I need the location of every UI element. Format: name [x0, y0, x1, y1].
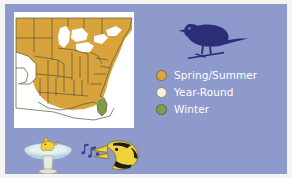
- circle-swatch-icon: [156, 87, 167, 98]
- legend: Spring/Summer Year-Round Winter: [156, 67, 286, 118]
- birdbath-bird-eye: [45, 143, 47, 145]
- legend-item-winter[interactable]: Winter: [156, 101, 286, 118]
- singing-bird-head: [93, 141, 138, 170]
- bird-eye: [188, 27, 190, 29]
- singing-bird-eye: [115, 148, 118, 151]
- legend-item-label: Winter: [174, 104, 209, 115]
- bird-in-birdbath-illustration: [21, 130, 75, 174]
- legend-item-year-round[interactable]: Year-Round: [156, 84, 286, 101]
- range-map: [14, 12, 134, 128]
- perched-songbird-silhouette-icon: [178, 13, 252, 63]
- circle-swatch-icon: [156, 104, 167, 115]
- legend-item-label: Year-Round: [174, 87, 234, 98]
- figure-panel: Spring/Summer Year-Round Winter: [5, 4, 287, 174]
- range-map-figure: Spring/Summer Year-Round Winter: [0, 0, 292, 178]
- circle-swatch-icon: [156, 70, 167, 81]
- legend-item-label: Spring/Summer: [174, 70, 257, 81]
- legend-item-spring-summer[interactable]: Spring/Summer: [156, 67, 286, 84]
- singing-bird-illustration: [80, 130, 142, 174]
